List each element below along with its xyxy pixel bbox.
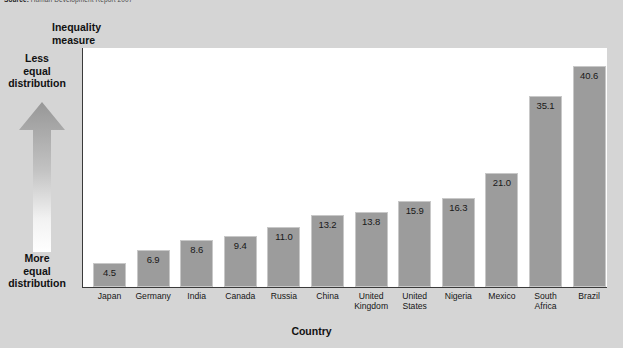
less-equal-label-line3: distribution [0,77,78,90]
bar-series: 4.56.98.69.411.013.213.815.916.321.035.1… [84,48,607,287]
inequality-direction-legend: Less equal distribution More equal distr… [0,52,82,292]
bar [485,173,518,287]
less-equal-label: Less equal distribution [0,52,78,90]
up-arrow-icon [14,100,70,252]
bar-value-label: 21.0 [485,177,518,188]
bar-value-label: 16.3 [442,202,475,213]
source-note-text: Human Development Report 2007 [31,0,133,3]
less-equal-label-line1: Less [0,52,78,65]
y-axis-title-line1: Inequality [52,21,148,34]
source-note-label: Source: [4,0,29,3]
y-axis-title-line2: measure [52,34,148,47]
bar-value-label: 35.1 [529,100,562,111]
x-axis-title: Country [0,325,623,337]
bar-value-label: 4.5 [93,267,126,278]
bar-value-label: 40.6 [573,70,606,81]
more-equal-label-line2: equal [0,265,78,278]
bar-value-label: 13.8 [355,216,388,227]
more-equal-label: More equal distribution [0,252,78,290]
x-tick-label-line: Africa [520,301,572,311]
bar-value-label: 15.9 [398,205,431,216]
less-equal-label-line2: equal [0,65,78,78]
y-axis-title: Inequality measure [52,21,148,46]
source-note: Source: Human Development Report 2007 [4,0,132,4]
more-equal-label-line3: distribution [0,277,78,290]
x-tick-label: Brazil [563,291,615,301]
bar-value-label: 8.6 [180,244,213,255]
bar [529,96,562,287]
inequality-bar-chart-figure: Source: Human Development Report 2007 In… [0,0,623,348]
x-tick-label-line: Brazil [563,291,615,301]
bar [573,66,606,287]
bar-value-label: 9.4 [224,240,257,251]
more-equal-label-line1: More [0,252,78,265]
x-tick-label-line: States [389,301,441,311]
bar-value-label: 6.9 [137,254,170,265]
x-axis-tick-labels: JapanGermanyIndiaCanadaRussiaChinaUnited… [84,291,607,319]
bar-value-label: 11.0 [267,231,300,242]
bar-value-label: 13.2 [311,219,344,230]
